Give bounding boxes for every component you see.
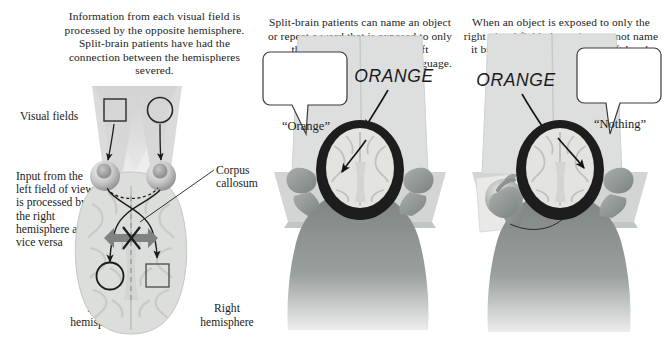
screen-word-orange: ORANGE	[476, 70, 555, 90]
patient-head-with-brain-cutaway	[316, 120, 404, 220]
speech-bubble-text-orange: “Orange”	[264, 120, 348, 134]
right-panel-graphics: ORANGE	[458, 0, 664, 354]
patient-head-with-brain-cutaway	[516, 120, 604, 220]
panel-middle-naming: Split-brain patients can name an object …	[262, 0, 458, 354]
middle-panel-graphics: ORANGE	[262, 0, 458, 354]
panel-left-diagram: Information from each visual field is pr…	[0, 0, 262, 354]
panel-right-pointing: When an object is exposed to only the ri…	[458, 0, 664, 354]
eye-left	[90, 161, 120, 191]
speech-bubble-text-nothing: “Nothing”	[578, 118, 662, 132]
eye-right	[146, 161, 176, 191]
screen-word-orange: ORANGE	[354, 66, 433, 86]
left-panel-graphics	[0, 0, 262, 354]
